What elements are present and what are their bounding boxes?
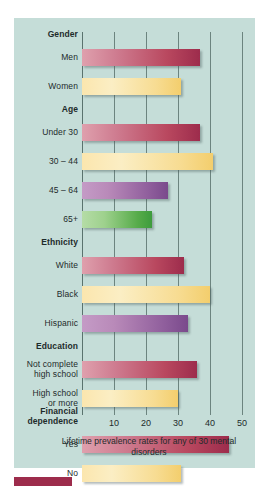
group-heading-line: Gender	[14, 30, 78, 40]
bar-label-line: Men	[14, 53, 78, 63]
bar	[82, 390, 178, 407]
bar-label: Men	[14, 53, 78, 63]
bar	[82, 465, 181, 482]
bar-label-line: White	[14, 261, 78, 271]
bar-label-line: 45 – 64	[14, 186, 78, 196]
bar	[82, 315, 188, 332]
bar-label: 45 – 64	[14, 186, 78, 196]
bar	[82, 286, 210, 303]
bar-row	[82, 124, 255, 141]
group-heading: Financialdependence	[14, 407, 78, 426]
bar-label-line: high school	[14, 370, 78, 380]
bar-label-line: Black	[14, 290, 78, 300]
x-tick-label-10: 10	[102, 418, 126, 428]
group-heading: Age	[14, 105, 78, 115]
bar-label-line: 30 – 44	[14, 157, 78, 167]
group-heading: Gender	[14, 30, 78, 40]
bar-label: 30 – 44	[14, 157, 78, 167]
category-label-column: GenderMenWomenAgeUnder 3030 – 4445 – 646…	[14, 32, 78, 415]
bar-row	[82, 78, 255, 95]
group-heading-line: Age	[14, 105, 78, 115]
bar-label: 65+	[14, 215, 78, 225]
x-tick-label-40: 40	[198, 418, 222, 428]
bottom-color-swatch	[14, 477, 72, 486]
group-heading-line: Ethnicity	[14, 238, 78, 248]
bar-label: Not completehigh school	[14, 360, 78, 379]
bar	[82, 49, 200, 66]
bar	[82, 361, 197, 378]
x-tick-label-50: 50	[230, 418, 254, 428]
bar-label: Women	[14, 82, 78, 92]
bar	[82, 78, 181, 95]
x-tick-label-20: 20	[134, 418, 158, 428]
x-tick-label-30: 30	[166, 418, 190, 428]
bar-label-line: Women	[14, 82, 78, 92]
bar-row	[82, 257, 255, 274]
bar-row	[82, 315, 255, 332]
bar-row	[82, 361, 255, 378]
group-heading: Ethnicity	[14, 238, 78, 248]
bar-label-line: 65+	[14, 215, 78, 225]
bar-row	[82, 286, 255, 303]
bar-label: White	[14, 261, 78, 271]
bar	[82, 211, 152, 228]
bar-row	[82, 153, 255, 170]
bar	[82, 124, 200, 141]
group-heading-line: Education	[14, 342, 78, 352]
x-axis-tick-labels: 1020304050	[82, 418, 255, 432]
bar-row	[82, 390, 255, 407]
bar	[82, 182, 168, 199]
bar-label-line: Under 30	[14, 128, 78, 138]
group-heading: Education	[14, 342, 78, 352]
bar	[82, 153, 213, 170]
bar-label-line: Hispanic	[14, 319, 78, 329]
bar-label: Hispanic	[14, 319, 78, 329]
chart-panel: GenderMenWomenAgeUnder 3030 – 4445 – 646…	[14, 18, 255, 468]
bar-row	[82, 49, 255, 66]
bar	[82, 257, 184, 274]
bar-row	[82, 211, 255, 228]
bar-label: Black	[14, 290, 78, 300]
plot-area	[82, 32, 255, 415]
bar-label: Under 30	[14, 128, 78, 138]
bar-row	[82, 465, 255, 482]
chart-caption: Lifetime prevalence rates for any of 30 …	[54, 436, 244, 458]
bar-row	[82, 182, 255, 199]
group-heading-line: dependence	[14, 417, 78, 427]
